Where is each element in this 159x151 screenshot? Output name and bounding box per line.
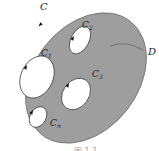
- label-d-region: D: [147, 46, 156, 57]
- figure-caption: 图 1.1: [74, 147, 97, 151]
- label-c-outer: C: [40, 1, 48, 12]
- region-diagram: CDC1C2C3Cn图 1.1: [0, 0, 159, 151]
- outer-boundary-arrow-icon: [37, 22, 42, 27]
